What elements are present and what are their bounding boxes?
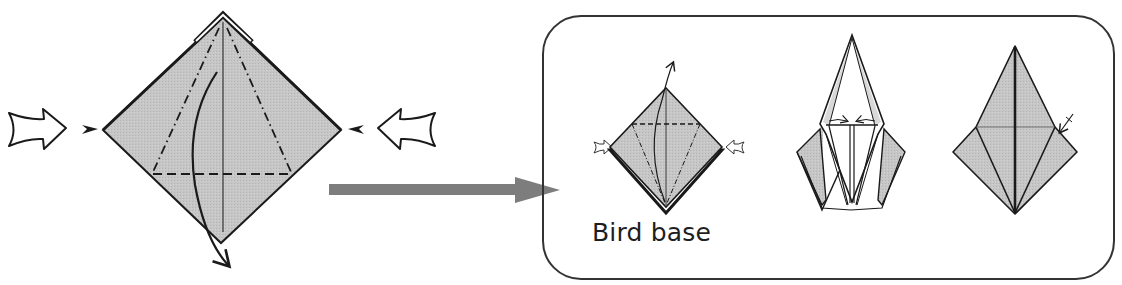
arrowhead-right-icon <box>348 125 364 134</box>
step-arrow-right-icon <box>329 177 560 203</box>
origami-diagram <box>0 0 1122 285</box>
arrowhead-left-icon <box>82 125 98 134</box>
step-3-diagram <box>797 35 905 210</box>
paper-diamond <box>103 17 341 243</box>
push-arrow-right-small-icon <box>726 140 744 154</box>
push-arrow-left-icon <box>9 109 66 149</box>
step-1-diagram <box>9 14 435 265</box>
crease-arrow-icon <box>1060 114 1073 132</box>
push-arrow-right-icon <box>378 109 435 149</box>
bird-base-caption: Bird base <box>592 220 711 245</box>
step-4-diagram <box>953 46 1077 214</box>
step-2-diagram <box>594 63 744 213</box>
